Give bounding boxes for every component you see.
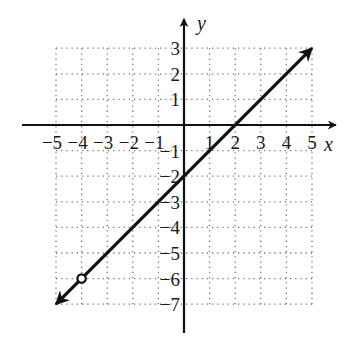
x-axis-label: x (323, 133, 333, 155)
open-circle-point (77, 274, 85, 282)
line-graph: −5−4−3−2−112345321−1−2−3−4−5−6−7 x y (0, 0, 364, 342)
y-tick-label: −5 (160, 243, 180, 264)
y-tick-label: 3 (171, 38, 181, 59)
x-tick-label: −4 (67, 132, 88, 153)
x-tick-label: 3 (256, 132, 266, 153)
y-tick-label: −4 (160, 217, 181, 238)
x-tick-label: −3 (93, 132, 113, 153)
y-tick-label: −7 (160, 294, 180, 315)
y-tick-label: −6 (160, 269, 180, 290)
x-tick-label: 2 (230, 132, 240, 153)
x-tick-label: 5 (307, 132, 317, 153)
y-tick-label: −3 (160, 192, 180, 213)
y-tick-label: 2 (171, 64, 181, 85)
x-tick-label: −5 (42, 132, 62, 153)
x-tick-label: 4 (282, 132, 292, 153)
y-axis-label: y (195, 12, 206, 35)
y-tick-label: −1 (160, 141, 180, 162)
y-tick-label: 1 (171, 89, 181, 110)
x-tick-label: −2 (119, 132, 139, 153)
